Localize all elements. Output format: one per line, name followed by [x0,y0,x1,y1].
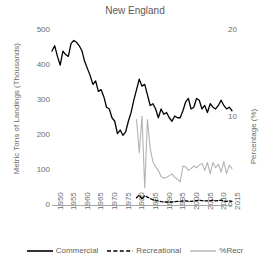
series-line-recreational [137,195,232,202]
plot-area [0,0,270,274]
series-line-recr [137,116,232,188]
legend-label-pct-recr: %Recr [219,246,243,255]
legend-item-commercial[interactable]: Commercial [27,246,99,255]
legend-item-recreational[interactable]: Recreational [107,246,181,255]
legend-swatch-commercial [27,247,53,255]
chart-container: New England Metric Tons of Landings (Tho… [0,0,270,274]
legend-swatch-pct-recr [190,247,216,255]
chart-legend: Commercial Recreational %Recr [0,246,270,255]
legend-swatch-recreational [107,247,133,255]
legend-item-pct-recr[interactable]: %Recr [190,246,243,255]
legend-label-commercial: Commercial [56,246,99,255]
legend-label-recreational: Recreational [136,246,181,255]
